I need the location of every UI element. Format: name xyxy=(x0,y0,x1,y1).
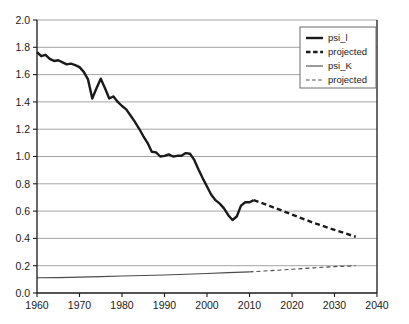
x-axis-tick-label: 2030 xyxy=(323,299,347,311)
y-axis-tick-label: 2.0 xyxy=(15,14,30,26)
x-axis-tick-label: 2020 xyxy=(280,299,304,311)
y-axis-labels-group: 0.00.20.40.60.81.01.21.41.61.82.0 xyxy=(15,14,30,299)
y-axis-tick-label: 0.4 xyxy=(15,232,30,244)
legend-label-3: projected xyxy=(328,74,367,85)
chart-legend: psi_lprojectedpsi_Kprojected xyxy=(300,27,376,88)
x-axis-tick-label: 1970 xyxy=(68,299,92,311)
y-axis-tick-label: 0.0 xyxy=(15,287,30,299)
x-axis-tick-label: 2010 xyxy=(238,299,262,311)
x-axis-tick-label: 1960 xyxy=(25,299,49,311)
y-axis-tick-label: 1.8 xyxy=(15,41,30,53)
y-axis-tick-label: 1.4 xyxy=(15,96,30,108)
chart-container: 0.00.20.40.60.81.01.21.41.61.82.0 196019… xyxy=(0,0,409,324)
y-axis-tick-label: 0.8 xyxy=(15,178,30,190)
y-axis-tick-label: 1.0 xyxy=(15,150,30,162)
legend-label-2: psi_K xyxy=(328,60,352,71)
y-axis-tick-label: 0.6 xyxy=(15,205,30,217)
x-axis-tick-label: 2040 xyxy=(365,299,389,311)
line-chart: 0.00.20.40.60.81.01.21.41.61.82.0 196019… xyxy=(0,0,409,324)
y-axis-tick-label: 1.2 xyxy=(15,123,30,135)
x-axis-tick-label: 1990 xyxy=(153,299,177,311)
x-axis-tick-label: 2000 xyxy=(195,299,219,311)
y-axis-tick-label: 1.6 xyxy=(15,68,30,80)
y-axis-tick-label: 0.2 xyxy=(15,260,30,272)
legend-label-1: projected xyxy=(328,46,367,57)
legend-label-0: psi_l xyxy=(328,32,348,43)
x-axis-tick-label: 1980 xyxy=(110,299,134,311)
x-axis-labels-group: 196019701980199020002010202020302040 xyxy=(25,299,389,311)
